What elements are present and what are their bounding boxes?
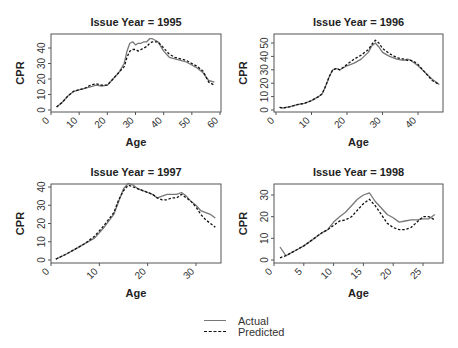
x-tick-label: 25 (408, 265, 424, 281)
x-axis-label: Age (348, 136, 369, 148)
x-tick-label: 40 (403, 114, 419, 130)
x-tick-label: 0 (265, 114, 277, 126)
y-tick-label: 10 (259, 232, 270, 244)
y-tick-label: 0 (259, 257, 270, 263)
x-tick-label: 10 (318, 265, 334, 281)
x-tick-label: 15 (348, 265, 364, 281)
y-tick-label: 30 (36, 58, 47, 70)
y-tick-label: 40 (259, 50, 270, 62)
panel-title: Issue Year = 1997 (90, 166, 181, 178)
legend-item-predicted: Predicted (204, 326, 284, 337)
y-tick-label: 40 (36, 181, 47, 193)
x-tick-label: 20 (332, 114, 348, 130)
x-tick-label: 0 (40, 114, 52, 126)
plot-frame (51, 34, 221, 112)
panel-4: Issue Year = 199805101520250102030AgeCPR (237, 166, 443, 299)
panel-title: Issue Year = 1998 (313, 166, 404, 178)
predicted-line (280, 199, 435, 257)
y-tick-label: 20 (36, 218, 47, 230)
legend-item-actual: Actual (204, 315, 284, 326)
actual-line (56, 183, 216, 259)
y-tick-label: 20 (259, 211, 270, 223)
actual-line (57, 39, 215, 107)
x-tick-label: 0 (263, 265, 275, 277)
y-tick-label: 30 (259, 64, 270, 76)
y-tick-label: 50 (259, 37, 270, 49)
plot-frame (51, 184, 221, 263)
panel-2: Issue Year = 199601020304001020304050Age… (237, 16, 443, 148)
x-axis-label: Age (126, 287, 147, 299)
x-tick-label: 20 (378, 265, 394, 281)
legend: Actual Predicted (204, 315, 284, 337)
figure: Issue Year = 19950102030405060010203040A… (0, 0, 458, 348)
x-tick-label: 60 (205, 114, 221, 130)
x-tick-label: 30 (367, 114, 383, 130)
y-tick-label: 20 (36, 73, 47, 85)
x-axis-label: Age (348, 287, 369, 299)
y-tick-label: 0 (36, 107, 47, 113)
predicted-line (56, 185, 216, 259)
y-tick-label: 30 (36, 199, 47, 211)
panel-3: Issue Year = 19970102030010203040AgeCPR (14, 166, 221, 299)
y-tick-label: 40 (36, 42, 47, 54)
predicted-line (280, 40, 440, 108)
y-tick-label: 20 (259, 77, 270, 89)
legend-label-predicted: Predicted (238, 326, 284, 338)
plot-frame (274, 34, 443, 112)
x-tick-label: 20 (132, 265, 148, 281)
x-tick-label: 10 (84, 265, 100, 281)
x-tick-label: 20 (92, 114, 108, 130)
panel-title: Issue Year = 1996 (313, 16, 404, 28)
x-tick-label: 5 (293, 265, 305, 277)
y-axis-label: CPR (14, 212, 26, 235)
y-tick-label: 10 (259, 91, 270, 103)
x-tick-label: 50 (177, 114, 193, 130)
x-tick-label: 10 (64, 114, 80, 130)
y-tick-label: 10 (36, 236, 47, 248)
y-axis-label: CPR (237, 61, 249, 84)
x-tick-label: 0 (40, 265, 52, 277)
y-tick-label: 10 (36, 89, 47, 101)
y-axis-label: CPR (14, 61, 26, 84)
y-tick-label: 0 (259, 107, 270, 113)
x-tick-label: 30 (181, 265, 197, 281)
y-axis-label: CPR (237, 212, 249, 235)
predicted-line (57, 42, 215, 107)
panel-1: Issue Year = 19950102030405060010203040A… (14, 16, 221, 148)
plot-frame (274, 184, 443, 263)
x-tick-label: 40 (148, 114, 164, 130)
actual-line (280, 43, 440, 108)
y-tick-label: 0 (36, 257, 47, 263)
panel-title: Issue Year = 1995 (90, 16, 181, 28)
y-tick-label: 30 (259, 189, 270, 201)
x-tick-label: 30 (120, 114, 136, 130)
dashed-line-swatch-icon (204, 331, 226, 332)
solid-line-swatch-icon (204, 320, 226, 321)
x-axis-label: Age (126, 136, 147, 148)
x-tick-label: 10 (296, 114, 312, 130)
